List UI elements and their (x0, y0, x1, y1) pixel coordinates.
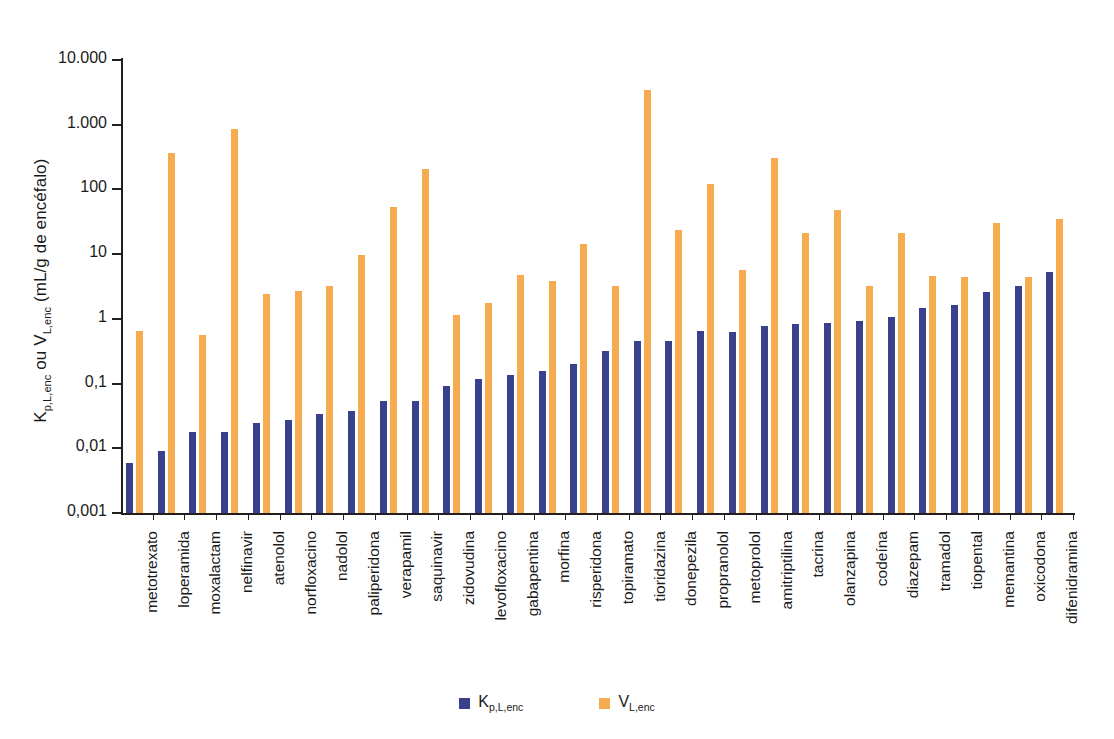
bar-vl (771, 158, 778, 513)
x-axis-label: amitriptilina (778, 375, 796, 525)
y-axis-tick-label: 1.000 (67, 114, 107, 132)
x-axis-label-text: norfloxacino (302, 525, 320, 675)
y-axis-tick-label: 100 (80, 178, 107, 196)
y-axis-title: Kp,L,enc ou VL,enc (mL/g de encéfalo) (31, 71, 52, 511)
x-axis-label-text: amitriptilina (778, 525, 796, 675)
x-axis-label-text: topiramato (619, 525, 637, 675)
y-axis-tick-label: 0,001 (67, 502, 107, 520)
chart-figure: Kp,L,enc ou VL,enc (mL/g de encéfalo) 10… (0, 0, 1114, 739)
y-axis-tick-label: 1 (98, 308, 107, 326)
legend-entry-kp: Kp,L,enc (459, 693, 523, 713)
y-axis-tick-label: 0,1 (85, 373, 107, 391)
bar-vl (390, 207, 397, 513)
x-axis-label-text: risperidona (587, 525, 605, 675)
x-axis-label: paliperidona (365, 375, 383, 525)
y-axis-tick-mark (112, 318, 121, 320)
bar-vl (517, 275, 524, 513)
bar-vl (866, 286, 873, 513)
x-axis-label: diazepam (904, 375, 922, 525)
x-axis-label-text: olanzapina (841, 525, 859, 675)
bar-vl (263, 294, 270, 513)
x-axis-label-text: levofloxacino (492, 525, 510, 675)
legend-swatch-icon (599, 698, 610, 709)
bar-vl (168, 153, 175, 513)
x-axis-label: olanzapina (841, 375, 859, 525)
x-axis-label: tramadol (936, 375, 954, 525)
x-axis-label-text: tioridazina (651, 525, 669, 675)
x-axis-label-text: nelfinavir (238, 525, 256, 675)
x-axis-label-text: tramadol (936, 525, 954, 675)
y-axis-tick-mark (112, 383, 121, 385)
x-axis-label: codeína (873, 375, 891, 525)
x-axis-label: metoprolol (746, 375, 764, 525)
bar-vl (961, 277, 968, 513)
x-axis-label-text: zidovudina (460, 525, 478, 675)
x-axis-label-text: atenolol (270, 525, 288, 675)
x-axis-label-text: verapamil (397, 525, 415, 675)
x-axis-label: nadolol (333, 375, 351, 525)
x-axis-label-text: donepezila (682, 525, 700, 675)
x-axis-label: atenolol (270, 375, 288, 525)
x-axis-label: loperamida (175, 375, 193, 525)
x-axis-label: levofloxacino (492, 375, 510, 525)
x-axis-label: zidovudina (460, 375, 478, 525)
x-axis-label-text: nadolol (333, 525, 351, 675)
x-axis-label: propranolol (714, 375, 732, 525)
y-axis-tick-mark (112, 253, 121, 255)
bar-vl (612, 286, 619, 513)
y-axis-tick-mark (112, 447, 121, 449)
x-axis-label-text: metotrexato (143, 525, 161, 675)
bar-vl (485, 303, 492, 513)
x-axis-label-text: morfina (555, 525, 573, 675)
x-axis-label: donepezila (682, 375, 700, 525)
x-axis-label-text: saquinavir (428, 525, 446, 675)
x-axis-label-text: tiopental (968, 525, 986, 675)
x-axis-label: topiramato (619, 375, 637, 525)
x-axis-label: tacrina (809, 375, 827, 525)
x-axis-label: memantina (1000, 375, 1018, 525)
bar-vl (739, 270, 746, 513)
y-axis-tick-label: 0,01 (76, 437, 107, 455)
y-axis-tick-label: 10.000 (58, 49, 107, 67)
x-axis-label-text: tacrina (809, 525, 827, 675)
legend-label: Kp,L,enc (478, 693, 523, 713)
x-axis-label-text: memantina (1000, 525, 1018, 675)
x-axis-label: norfloxacino (302, 375, 320, 525)
x-axis-label: verapamil (397, 375, 415, 525)
x-axis-label: metotrexato (143, 375, 161, 525)
y-axis-tick-mark (112, 124, 121, 126)
chart-legend: Kp,L,encVL,enc (0, 693, 1114, 713)
x-axis-label-text: codeína (873, 525, 891, 675)
bar-kp (126, 463, 133, 513)
legend-swatch-icon (459, 698, 470, 709)
x-axis-label-text: difenidramina (1063, 525, 1081, 675)
x-axis-label: tiopental (968, 375, 986, 525)
x-axis-label: morfina (555, 375, 573, 525)
x-axis-label-text: paliperidona (365, 525, 383, 675)
x-axis-label: saquinavir (428, 375, 446, 525)
x-axis-label: oxicodona (1031, 375, 1049, 525)
bar-vl (295, 291, 302, 513)
x-axis-label-text: moxalactam (206, 525, 224, 675)
y-axis-tick-mark (112, 188, 121, 190)
y-axis-tick-mark (112, 512, 121, 514)
x-axis-label-text: loperamida (175, 525, 193, 675)
x-axis-label-text: propranolol (714, 525, 732, 675)
x-axis-label-text: diazepam (904, 525, 922, 675)
x-axis-label: gabapentina (524, 375, 542, 525)
bar-vl (136, 331, 143, 513)
x-axis-label: nelfinavir (238, 375, 256, 525)
x-axis-label: risperidona (587, 375, 605, 525)
legend-entry-vl: VL,enc (599, 693, 654, 713)
x-axis-label: tioridazina (651, 375, 669, 525)
x-axis-label: moxalactam (206, 375, 224, 525)
y-axis-tick-mark (112, 59, 121, 61)
x-axis-label: difenidramina (1063, 375, 1081, 525)
legend-label: VL,enc (618, 693, 654, 713)
bar-vl (644, 90, 651, 513)
bar-vl (993, 223, 1000, 513)
x-axis-label-text: oxicodona (1031, 525, 1049, 675)
x-axis-label-text: gabapentina (524, 525, 542, 675)
x-axis-label-text: metoprolol (746, 525, 764, 675)
y-axis-tick-label: 10 (89, 243, 107, 261)
